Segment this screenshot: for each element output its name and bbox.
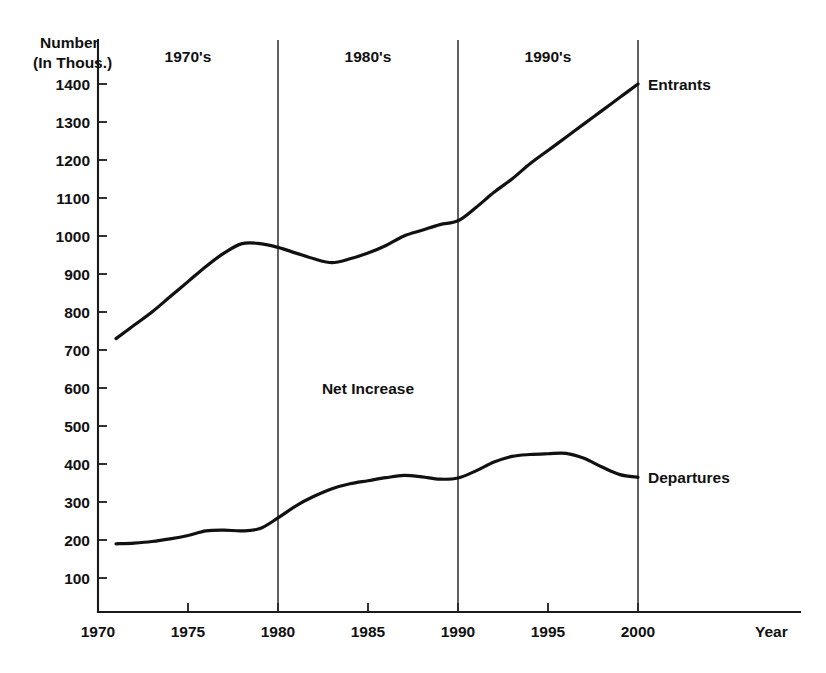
x-axis-title: Year [755, 623, 788, 640]
chart-annotations: Net Increase [322, 380, 415, 397]
chart-container: 1002003004005006007008009001000110012001… [0, 0, 826, 673]
y-tick-label-900: 900 [64, 266, 90, 283]
annotation-net-increase: Net Increase [322, 380, 415, 397]
y-tick-label-1300: 1300 [56, 114, 90, 131]
y-axis-tick-labels: 1002003004005006007008009001000110012001… [56, 76, 90, 587]
series-line-departures [116, 453, 638, 544]
y-tick-label-800: 800 [64, 304, 90, 321]
y-axis-title-line1: Number [40, 34, 99, 51]
series-label-departures: Departures [648, 469, 730, 486]
x-tick-label-1990: 1990 [441, 623, 475, 640]
decade-band-labels: 1970's1980's1990's [165, 48, 572, 65]
y-tick-label-300: 300 [64, 494, 90, 511]
x-axis-ticks [98, 603, 638, 612]
y-axis-title-line2: (In Thous.) [33, 54, 112, 71]
decade-label-1970s: 1970's [165, 48, 212, 65]
x-tick-label-1980: 1980 [261, 623, 295, 640]
y-tick-label-1400: 1400 [56, 76, 90, 93]
y-tick-label-1100: 1100 [56, 190, 90, 207]
x-tick-label-1975: 1975 [171, 623, 206, 640]
y-tick-label-500: 500 [64, 418, 90, 435]
y-tick-label-100: 100 [64, 570, 90, 587]
chart-axes [98, 40, 800, 612]
x-tick-label-2000: 2000 [621, 623, 655, 640]
y-tick-label-600: 600 [64, 380, 90, 397]
y-axis-ticks [98, 84, 107, 578]
y-tick-label-200: 200 [64, 532, 90, 549]
y-tick-label-400: 400 [64, 456, 90, 473]
series-label-entrants: Entrants [648, 76, 711, 93]
y-tick-label-1000: 1000 [56, 228, 90, 245]
y-tick-label-700: 700 [64, 342, 90, 359]
y-tick-label-1200: 1200 [56, 152, 90, 169]
x-tick-label-1970: 1970 [81, 623, 115, 640]
x-axis-tick-labels: 1970197519801985199019952000 [81, 623, 655, 640]
decade-label-1980s: 1980's [345, 48, 392, 65]
series-line-entrants [116, 84, 638, 339]
x-tick-label-1985: 1985 [351, 623, 386, 640]
line-chart: 1002003004005006007008009001000110012001… [0, 0, 826, 673]
data-series-group [116, 84, 638, 544]
decade-label-1990s: 1990's [525, 48, 572, 65]
x-tick-label-1995: 1995 [531, 623, 566, 640]
series-labels-group: EntrantsDepartures [648, 76, 730, 486]
